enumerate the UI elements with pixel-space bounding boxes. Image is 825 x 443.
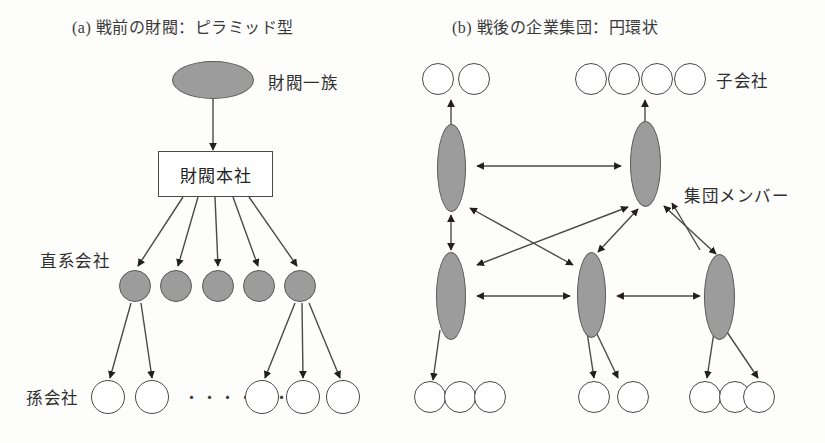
subsidiary-top-left-2 <box>458 63 490 95</box>
group-member-bottom-right <box>704 254 735 340</box>
grandchild-company-4 <box>286 380 320 414</box>
subsidiary-top-right-3 <box>641 63 673 95</box>
edge-member-label-pointer <box>672 203 700 250</box>
subsidiary-bottom-left-2 <box>444 381 476 413</box>
group-member-label: 集団メンバー <box>684 183 789 207</box>
zaibatsu-family-label: 財閥一族 <box>268 70 338 94</box>
subsidiary-top-right-1 <box>575 63 607 95</box>
grandchild-company-1 <box>91 380 125 414</box>
edge-hq-to-direct-1 <box>138 197 183 266</box>
subsidiary-bottom-right-3 <box>743 381 775 413</box>
zaibatsu-headquarters-box: 財閥本社 <box>158 151 273 197</box>
edge-direct5-to-grandchild-3 <box>309 303 340 378</box>
edge-direct1-to-grandchild-2 <box>141 303 152 378</box>
edge-direct5-to-grandchild-2 <box>302 303 303 378</box>
panel-a-caption: (a) 戦前の財閥：ピラミッド型 <box>72 14 294 38</box>
edge-hq-to-direct-2 <box>178 197 198 266</box>
subsidiary-top-right-2 <box>608 63 640 95</box>
direct-subsidiary-label: 直系会社 <box>40 248 110 272</box>
edge-hq-to-direct-5 <box>249 197 297 266</box>
direct-subsidiary-2 <box>160 270 192 302</box>
grandchild-company-3 <box>245 380 279 414</box>
subsidiary-bottom-middle-2 <box>617 381 649 413</box>
subsidiary-label: 子会社 <box>716 68 769 92</box>
edge-memberBR-to-subsidiary-2 <box>727 332 758 378</box>
grandchild-company-label: 孫会社 <box>26 385 79 409</box>
edge-direct1-to-grandchild-1 <box>110 303 131 378</box>
edge-hq-to-direct-3 <box>215 197 218 266</box>
subsidiary-bottom-left-3 <box>474 381 506 413</box>
subsidiary-top-left-1 <box>422 63 454 95</box>
zaibatsu-family-ellipse <box>172 61 254 99</box>
connector-layer <box>0 0 825 443</box>
figure-canvas: (a) 戦前の財閥：ピラミッド型 (b) 戦後の企業集団：円環状 <box>0 0 825 443</box>
edge-memberBM-to-subsidiary-1 <box>587 332 594 378</box>
subsidiary-top-right-4 <box>674 63 706 95</box>
edge-memberBR-to-subsidiary-1 <box>707 332 714 378</box>
edge-memberUR-memberBL <box>477 207 628 265</box>
subsidiary-bottom-left-1 <box>414 381 446 413</box>
direct-subsidiary-3 <box>202 270 234 302</box>
edge-memberUR-memberBR <box>664 206 716 254</box>
group-member-upper-right <box>630 121 661 207</box>
panel-b-caption: (b) 戦後の企業集団：円環状 <box>452 14 658 38</box>
group-member-upper-left <box>437 124 466 212</box>
edge-memberBL-to-subsidiary <box>433 330 440 380</box>
direct-subsidiary-5 <box>284 270 316 302</box>
edge-memberUR-memberBM <box>598 209 638 252</box>
edge-direct5-to-grandchild-1 <box>265 303 295 378</box>
direct-subsidiary-4 <box>243 270 275 302</box>
group-member-bottom-middle <box>577 252 606 338</box>
direct-subsidiary-1 <box>119 270 151 302</box>
subsidiary-bottom-middle-1 <box>578 381 610 413</box>
group-member-bottom-left <box>436 252 466 340</box>
subsidiary-bottom-right-1 <box>689 381 721 413</box>
grandchild-company-2 <box>135 380 169 414</box>
edge-memberUL-memberBM <box>470 208 573 265</box>
grandchild-company-5 <box>326 380 360 414</box>
edge-hq-to-direct-4 <box>233 197 258 266</box>
edge-memberBM-to-subsidiary-2 <box>596 332 618 378</box>
